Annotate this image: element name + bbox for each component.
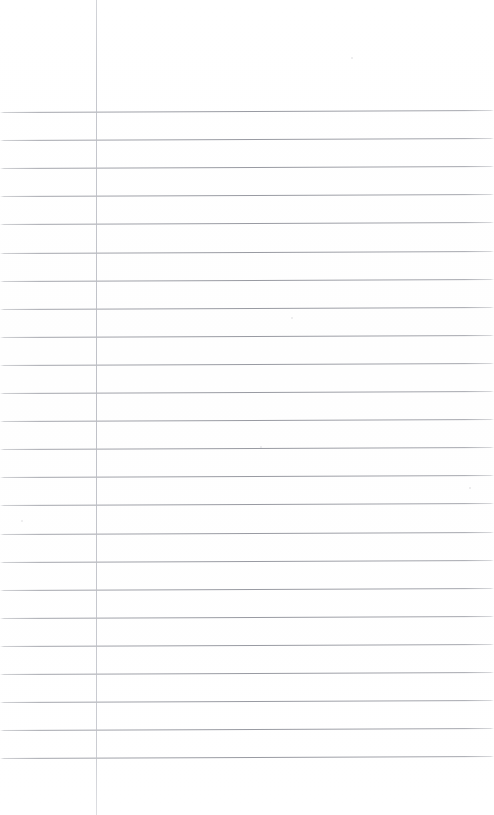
ruled-line	[0, 475, 494, 478]
ruled-line-stroke	[0, 166, 494, 169]
ruled-line	[0, 447, 494, 450]
ruled-line	[0, 391, 494, 394]
scan-speck	[260, 446, 262, 448]
ruled-line	[0, 363, 494, 366]
ruled-line	[0, 532, 494, 535]
scan-speck	[291, 317, 293, 319]
ruled-line-stroke	[0, 503, 494, 506]
ruled-line	[0, 307, 494, 310]
scan-speck	[21, 520, 23, 522]
ruled-line-stroke	[0, 644, 494, 647]
vertical-margin-rule-line	[96, 0, 97, 815]
ruled-line-stroke	[0, 391, 494, 394]
ruled-line	[0, 335, 494, 338]
ruled-line	[0, 251, 494, 254]
ruled-line-stroke	[0, 279, 494, 282]
ruled-line	[0, 644, 494, 647]
ruled-line	[0, 728, 494, 731]
ruled-line-stroke	[0, 560, 494, 563]
ruled-line-stroke	[0, 447, 494, 450]
ruled-line	[0, 672, 494, 675]
ruled-line-stroke	[0, 222, 494, 225]
ruled-line-stroke	[0, 700, 494, 703]
notebook-page	[0, 0, 494, 815]
scan-speck	[351, 57, 353, 59]
ruled-line-stroke	[0, 335, 494, 338]
ruled-line-stroke	[0, 194, 494, 197]
ruled-line	[0, 700, 494, 703]
ruled-line	[0, 616, 494, 619]
ruled-line	[0, 419, 494, 422]
ruled-line-stroke	[0, 110, 494, 113]
ruled-line-stroke	[0, 419, 494, 422]
ruled-line-stroke	[0, 756, 494, 759]
ruled-line	[0, 138, 494, 141]
ruled-line-stroke	[0, 251, 494, 254]
ruled-line	[0, 756, 494, 759]
ruled-line-stroke	[0, 475, 494, 478]
ruled-line-stroke	[0, 138, 494, 141]
ruled-line	[0, 560, 494, 563]
ruled-line-stroke	[0, 616, 494, 619]
ruled-line-stroke	[0, 532, 494, 535]
ruled-line-stroke	[0, 588, 494, 591]
scan-specks-layer	[0, 0, 494, 815]
ruled-line-stroke	[0, 728, 494, 731]
scan-speck	[469, 487, 471, 489]
ruled-line	[0, 588, 494, 591]
ruled-line	[0, 194, 494, 197]
paper-background	[0, 0, 494, 815]
ruled-line	[0, 503, 494, 506]
horizontal-ruling-lines	[0, 0, 494, 815]
ruled-line-stroke	[0, 363, 494, 366]
ruled-line-stroke	[0, 307, 494, 310]
ruled-line	[0, 166, 494, 169]
ruled-line	[0, 279, 494, 282]
ruled-line-stroke	[0, 672, 494, 675]
ruled-line	[0, 110, 494, 113]
ruled-line	[0, 222, 494, 225]
